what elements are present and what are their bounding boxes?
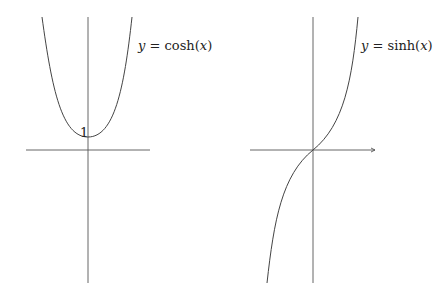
cosh-plot: 1 y = cosh(x) [26, 17, 212, 283]
hyperbolic-functions-diagram: 1 y = cosh(x) y = sinh(x) [0, 0, 446, 297]
sinh-equation-label: y = sinh(x) [360, 38, 433, 53]
cosh-intercept-label: 1 [80, 125, 88, 140]
sinh-plot: y = sinh(x) [250, 17, 433, 283]
cosh-equation-label: y = cosh(x) [137, 38, 212, 53]
cosh-curve [42, 17, 132, 137]
